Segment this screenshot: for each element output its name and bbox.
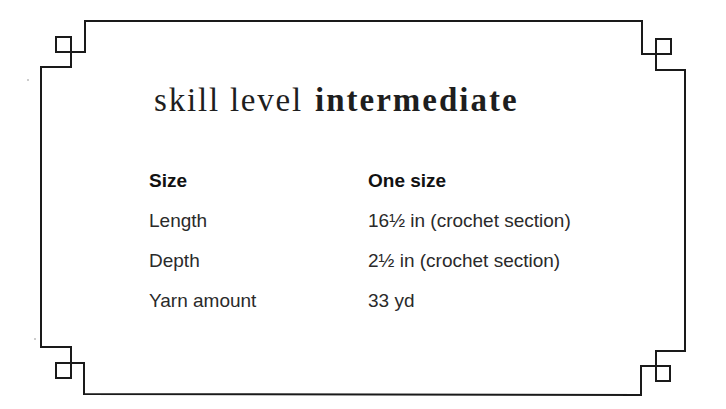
size-value: One size (368, 168, 446, 194)
skill-level-heading: skill levelintermediate (154, 80, 519, 120)
size-label: Size (149, 168, 187, 194)
depth-value: 2½ in (crochet section) (368, 248, 560, 274)
corner-square-top-left (56, 37, 71, 52)
skill-level-value: intermediate (315, 82, 519, 118)
corner-square-bottom-right (656, 366, 670, 381)
skill-level-label: skill level (154, 82, 303, 118)
yarn-amount-label: Yarn amount (149, 288, 256, 314)
length-value: 16½ in (crochet section) (368, 208, 571, 234)
frame-outline (41, 21, 685, 395)
decorative-frame (0, 0, 726, 409)
length-label: Length (149, 208, 207, 234)
corner-square-bottom-left (56, 363, 71, 378)
paper-speck (27, 79, 29, 81)
yarn-amount-value: 33 yd (368, 288, 414, 314)
depth-label: Depth (149, 248, 200, 274)
paper-speck (34, 338, 36, 340)
corner-square-top-right (656, 39, 671, 54)
